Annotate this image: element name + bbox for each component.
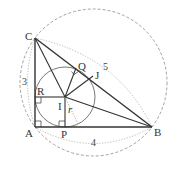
segment-b-i — [65, 97, 152, 127]
label-side-ab: 4 — [91, 137, 96, 148]
label-j: J — [95, 69, 100, 81]
arc-side-ac — [28, 38, 36, 127]
right-angle-r — [35, 97, 41, 103]
label-a: A — [25, 127, 33, 139]
label-c: C — [25, 30, 32, 42]
right-angle-p — [59, 121, 65, 127]
label-radius: r — [68, 103, 73, 115]
right-angle-a — [35, 121, 41, 127]
label-b: B — [154, 126, 161, 138]
geometry-diagram: C A B P R I Q J r 3 4 5 — [0, 0, 178, 170]
label-p: P — [61, 128, 67, 140]
label-r: R — [37, 85, 45, 97]
label-side-ac: 3 — [22, 76, 27, 87]
label-side-bc: 5 — [103, 61, 108, 72]
label-q: Q — [78, 60, 86, 72]
label-i: I — [58, 100, 62, 112]
side-bc — [35, 38, 152, 127]
